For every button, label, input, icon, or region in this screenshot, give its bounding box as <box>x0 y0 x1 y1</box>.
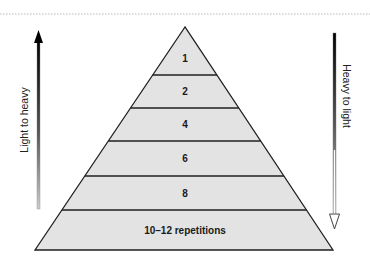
layer-label-3: 4 <box>182 119 188 130</box>
layer-label-4: 6 <box>182 153 188 164</box>
pyramid-diagram: 1 2 4 6 8 10–12 repetitions Light to hea… <box>0 0 370 270</box>
layer-label-6: 10–12 repetitions <box>144 225 226 236</box>
arrow-up-icon <box>34 30 43 209</box>
layer-label-1: 1 <box>182 53 188 64</box>
left-arrow-label: Light to heavy <box>18 87 30 153</box>
layer-label-2: 2 <box>182 86 188 97</box>
arrow-down-icon <box>330 33 340 229</box>
right-arrow-label: Heavy to light <box>341 64 353 128</box>
layer-label-5: 8 <box>182 188 188 199</box>
